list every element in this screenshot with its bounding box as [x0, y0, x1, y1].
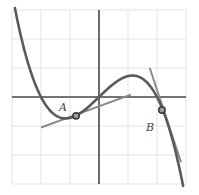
point-b [159, 107, 165, 113]
point-a [73, 113, 79, 119]
label-b: B [145, 121, 154, 134]
tangent-lines [41, 68, 181, 162]
function-graph: A B [0, 0, 199, 195]
label-a: A [58, 101, 67, 114]
tangent-line-a [41, 95, 131, 128]
